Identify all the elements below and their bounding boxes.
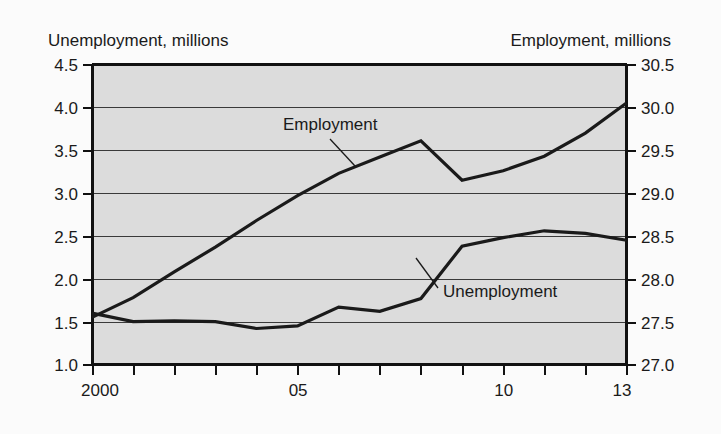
x-axis-tick-labels: 2000 05 10 13 [81,381,631,400]
right-axis-title: Employment, millions [510,31,671,50]
right-axis-ticks [627,65,636,365]
left-axis-title: Unemployment, millions [48,31,228,50]
left-tick-label: 3.5 [54,142,78,161]
right-tick-label: 27.5 [641,314,674,333]
x-tick-label: 2000 [81,381,119,400]
right-tick-label: 28.5 [641,228,674,247]
left-axis-ticks [83,65,92,365]
right-tick-label: 30.0 [641,99,674,118]
left-tick-label: 2.5 [54,228,78,247]
right-tick-label: 28.0 [641,271,674,290]
left-tick-label: 4.0 [54,99,78,118]
dual-axis-line-chart: Unemployment, millions Employment, milli… [0,0,721,434]
employment-annotation-label: Employment [283,115,378,134]
x-axis-ticks [93,365,627,375]
left-axis-tick-labels: 4.5 4.0 3.5 3.0 2.5 2.0 1.5 1.0 [54,56,78,375]
chart-page: Unemployment, millions Employment, milli… [0,0,721,434]
left-tick-label: 4.5 [54,56,78,75]
right-tick-label: 29.5 [641,142,674,161]
right-tick-label: 29.0 [641,185,674,204]
right-tick-label: 30.5 [641,56,674,75]
unemployment-annotation-label: Unemployment [443,282,558,301]
x-tick-label: 10 [494,381,513,400]
left-tick-label: 3.0 [54,185,78,204]
left-tick-label: 1.5 [54,314,78,333]
x-tick-label: 13 [613,381,632,400]
x-tick-label: 05 [289,381,308,400]
left-tick-label: 1.0 [54,356,78,375]
right-axis-tick-labels: 30.5 30.0 29.5 29.0 28.5 28.0 27.5 27.0 [641,56,674,375]
right-tick-label: 27.0 [641,356,674,375]
left-tick-label: 2.0 [54,271,78,290]
